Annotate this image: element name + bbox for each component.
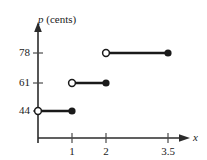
filled-circle-marker xyxy=(102,79,109,86)
open-circle-marker xyxy=(35,108,42,115)
plot-area xyxy=(0,0,207,160)
y-tick-label-78: 78 xyxy=(8,47,30,58)
y-axis-unit: (cents) xyxy=(46,13,76,25)
y-tick-label-61: 61 xyxy=(8,77,30,88)
open-circle-marker xyxy=(103,50,110,57)
step-segment-1 xyxy=(35,107,76,114)
step-segment-2 xyxy=(69,79,110,86)
step-segment-3 xyxy=(103,49,172,56)
x-axis xyxy=(38,134,190,142)
open-circle-marker xyxy=(69,80,76,87)
filled-circle-marker xyxy=(164,49,171,56)
filled-circle-marker xyxy=(68,107,75,114)
y-axis-title: p (cents) xyxy=(38,14,76,25)
y-tick-label-44: 44 xyxy=(8,105,30,116)
x-tick-label-2: 2 xyxy=(93,146,119,157)
x-tick-label-1: 1 xyxy=(59,146,85,157)
x-axis-title: x xyxy=(193,132,198,143)
step-function-figure: p (cents) x 78 61 44 1 2 3.5 xyxy=(0,0,207,160)
x-tick-label-3-5: 3.5 xyxy=(155,146,181,157)
